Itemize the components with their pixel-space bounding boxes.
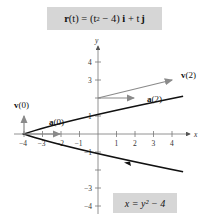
- x-tick-label: 1: [115, 139, 119, 148]
- y-tick-label: 4: [88, 58, 92, 67]
- x-axis-label: x: [193, 130, 198, 139]
- x-tick-label: −4: [19, 139, 27, 148]
- x-tick-label: 2: [133, 139, 137, 148]
- v0-label: v(0): [14, 100, 29, 110]
- x-tick-label: 3: [152, 139, 156, 148]
- graph: −4 −3 −2 −1 1 2 3 4 4 3 1 −1 −3 −4 x y v…: [0, 0, 204, 219]
- curve-equation-label: x = y² − 4: [113, 193, 177, 213]
- a2-label: a(2): [147, 94, 162, 104]
- parabola-curve: [98, 150, 183, 173]
- y-tick-label: −4: [84, 202, 92, 211]
- y-tick-label: −3: [84, 184, 92, 193]
- x-tick-label: 4: [170, 139, 174, 148]
- v2-label: v(2): [181, 70, 196, 80]
- y-tick-label: 3: [88, 76, 92, 85]
- y-axis-label: y: [94, 36, 99, 45]
- direction-arrow-icon: [124, 162, 131, 167]
- x-tick-label: −1: [75, 139, 83, 148]
- a0-label: a(0): [49, 117, 64, 127]
